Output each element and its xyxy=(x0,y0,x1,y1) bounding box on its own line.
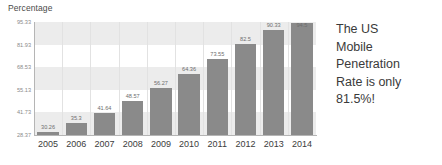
x-axis-tick-label: 2014 xyxy=(288,139,316,149)
bar[interactable] xyxy=(66,123,87,135)
bar-value-label: 64.36 xyxy=(175,66,203,72)
bar-slot: 94.5 xyxy=(288,22,316,135)
x-axis-tick-label: 2008 xyxy=(119,139,147,149)
callout-line: Mobile xyxy=(336,39,440,57)
callout-line: 81.5%! xyxy=(336,91,440,109)
bar-value-label: 35.3 xyxy=(62,115,90,121)
y-axis-tick-label: 55.13 xyxy=(17,87,31,93)
bar[interactable] xyxy=(263,30,284,135)
bar-slot: 56.27 xyxy=(147,22,175,135)
plot-area: 30.2635.341.6448.5756.2764.3673.5582.590… xyxy=(34,22,316,135)
slide-root: Percentage 30.2635.341.6448.5756.2764.36… xyxy=(0,0,442,165)
bar[interactable] xyxy=(150,88,171,135)
bar-slot: 30.26 xyxy=(34,22,62,135)
bar[interactable] xyxy=(207,59,228,135)
x-axis-tick-label: 2005 xyxy=(34,139,62,149)
bar-value-label: 30.26 xyxy=(34,124,62,130)
bar-slot: 90.33 xyxy=(260,22,288,135)
y-axis-line xyxy=(34,22,35,136)
x-axis-tick-label: 2012 xyxy=(231,139,259,149)
bar[interactable] xyxy=(178,74,199,135)
callout-text: The USMobilePenetrationRate is only81.5%… xyxy=(336,21,440,109)
callout-line: The US xyxy=(336,21,440,39)
bar-chart: Percentage 30.2635.341.6448.5756.2764.36… xyxy=(0,0,330,165)
x-axis-tick-label: 2013 xyxy=(260,139,288,149)
bar[interactable] xyxy=(122,101,143,135)
x-axis-tick-label: 2011 xyxy=(203,139,231,149)
bar-slot: 41.64 xyxy=(90,22,118,135)
bar-value-label: 82.5 xyxy=(231,36,259,42)
bar[interactable] xyxy=(94,113,115,135)
bar-value-label: 48.57 xyxy=(119,93,147,99)
bar-value-label: 56.27 xyxy=(147,80,175,86)
x-axis-tick-label: 2007 xyxy=(90,139,118,149)
x-axis-tick-label: 2006 xyxy=(62,139,90,149)
bar-value-label: 94.5 xyxy=(288,22,316,28)
bar-slot: 73.55 xyxy=(203,22,231,135)
y-axis-tick-labels: 95.3381.9368.5355.1341.7328.37 xyxy=(0,0,34,165)
x-axis-line xyxy=(34,135,317,136)
y-axis-tick-label: 95.33 xyxy=(17,19,31,25)
y-axis-tick-label: 68.53 xyxy=(17,64,31,70)
y-axis-tick-label: 81.93 xyxy=(17,42,31,48)
y-axis-tick-label: 28.37 xyxy=(17,132,31,138)
bar[interactable] xyxy=(291,23,312,135)
x-axis-tick-label: 2009 xyxy=(147,139,175,149)
bar-slot: 82.5 xyxy=(231,22,259,135)
bar-value-label: 73.55 xyxy=(203,51,231,57)
bar-slot: 35.3 xyxy=(62,22,90,135)
bar-value-label: 41.64 xyxy=(90,105,118,111)
bars-layer: 30.2635.341.6448.5756.2764.3673.5582.590… xyxy=(34,22,316,135)
bar-value-label: 90.33 xyxy=(260,22,288,28)
bar[interactable] xyxy=(235,44,256,135)
bar-slot: 64.36 xyxy=(175,22,203,135)
bar-slot: 48.57 xyxy=(119,22,147,135)
x-axis-tick-labels: 2005200620072008200920102011201220132014 xyxy=(34,139,316,159)
callout-line: Rate is only xyxy=(336,74,440,92)
callout-line: Penetration xyxy=(336,56,440,74)
x-axis-tick-label: 2010 xyxy=(175,139,203,149)
y-axis-tick-label: 41.73 xyxy=(17,109,31,115)
